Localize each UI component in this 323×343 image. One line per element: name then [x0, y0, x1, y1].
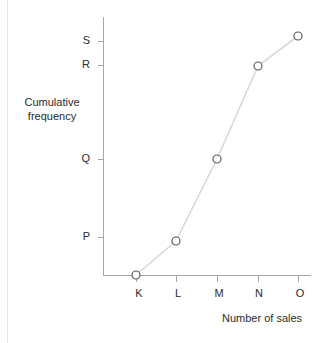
data-point-markers — [132, 32, 302, 279]
cumulative-frequency-chart: S R Q P K L M N O Cumulative frequency N… — [0, 0, 323, 343]
plot-area — [0, 0, 323, 343]
point-n — [254, 62, 262, 70]
point-k — [132, 271, 140, 279]
point-m — [213, 155, 221, 163]
point-o — [294, 32, 302, 40]
point-l — [172, 237, 180, 245]
